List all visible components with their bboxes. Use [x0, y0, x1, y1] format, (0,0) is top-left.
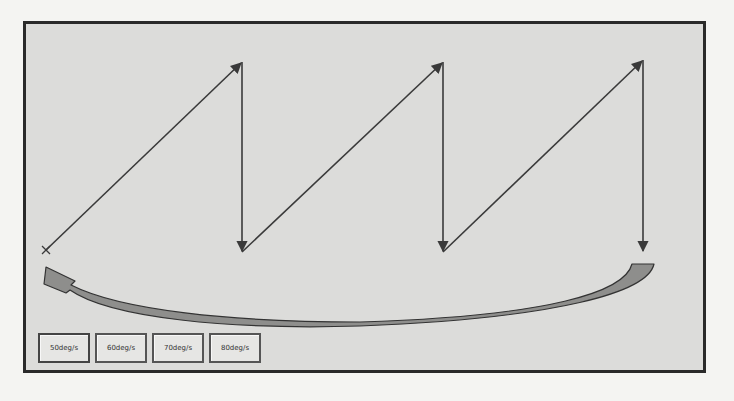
sawtooth-path [46, 60, 643, 252]
return-arc-arrow [44, 264, 654, 327]
speed-button-row: 50deg/s 60deg/s 70deg/s 80deg/s [38, 333, 261, 363]
speed-60-button[interactable]: 60deg/s [95, 333, 147, 363]
speed-50-button[interactable]: 50deg/s [38, 333, 90, 363]
speed-70-button[interactable]: 70deg/s [152, 333, 204, 363]
speed-80-button[interactable]: 80deg/s [209, 333, 261, 363]
